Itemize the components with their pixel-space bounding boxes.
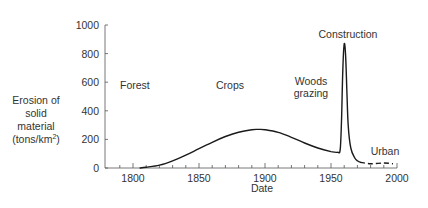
y-axis-label-line2: solid (25, 107, 47, 119)
x-tick-label: 2000 (385, 172, 409, 184)
erosion-chart: 0200400600800100018001850190019502000 Er… (0, 0, 428, 208)
y-tick-label: 0 (93, 162, 99, 174)
y-tick-label: 1000 (76, 19, 100, 31)
data-series (140, 43, 393, 168)
y-tick-label: 800 (81, 48, 99, 60)
tick-labels: 0200400600800100018001850190019502000 (76, 19, 409, 184)
y-axis-label-line4: (tons/km2) (12, 133, 60, 145)
annotation-forest: Forest (120, 79, 150, 91)
x-tick-label: 1850 (187, 172, 211, 184)
annotation-crops: Crops (216, 79, 244, 91)
x-tick-label: 1950 (319, 172, 343, 184)
y-tick-label: 400 (81, 105, 99, 117)
x-tick-label: 1800 (121, 172, 145, 184)
annotation-woods: Woods (295, 75, 328, 87)
annotation-urban: Urban (371, 145, 400, 157)
x-axis-label: Date (251, 182, 273, 194)
y-tick-label: 600 (81, 76, 99, 88)
y-axis-label-line1: Erosion of (12, 94, 59, 106)
annotation-grazing: grazing (294, 87, 329, 99)
annotation-construction: Construction (319, 28, 378, 40)
y-tick-label: 200 (81, 133, 99, 145)
y-axis-label-line3: material (17, 120, 54, 132)
axes (105, 25, 397, 168)
series-erosion (140, 43, 360, 168)
series-urban (360, 162, 393, 163)
